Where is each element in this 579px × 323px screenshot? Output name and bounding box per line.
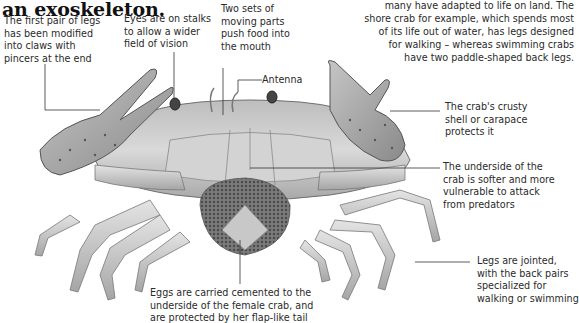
- annotation-mouthparts: Two sets of moving parts push food into …: [221, 3, 290, 53]
- left-legs: [35, 200, 190, 300]
- annotation-eggs: Eggs are carried cemented to the undersi…: [150, 287, 313, 323]
- annotation-legs: Legs are jointed, with the back pairs sp…: [477, 255, 579, 305]
- annotation-underside: The underside of the crab is softer and …: [443, 161, 555, 211]
- right-legs: [300, 190, 440, 300]
- annotation-shell: The crab's crusty shell or carapace prot…: [445, 101, 528, 139]
- annotation-antenna: Antenna: [262, 74, 302, 87]
- annotation-claws: The first pair of legs has been modified…: [4, 15, 100, 65]
- annotation-eyes: Eyes are on stalks to allow a wider fiel…: [124, 13, 211, 51]
